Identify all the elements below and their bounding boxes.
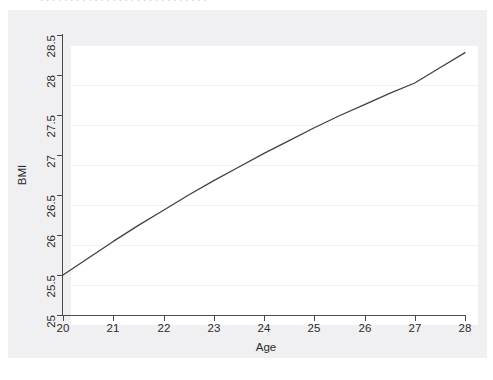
figure-canvas: ............................ 28.5 28 27.…	[0, 0, 493, 380]
bmi-age-curve	[63, 53, 465, 275]
data-curve-layer	[0, 0, 493, 380]
